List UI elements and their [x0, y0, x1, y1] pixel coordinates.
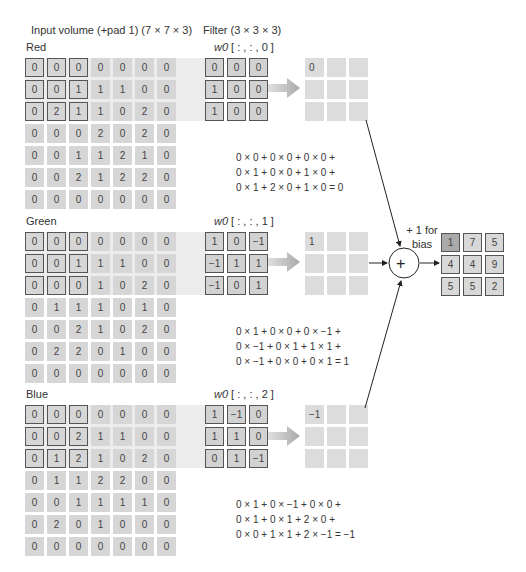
final-output-cell: 4: [441, 255, 460, 274]
final-output-cell: 7: [463, 233, 482, 252]
final-output-cell: 9: [485, 255, 504, 274]
bias-label: + 1 for bias: [397, 223, 447, 251]
final-output-grid: 175449552: [441, 233, 504, 296]
plus-icon: +: [396, 255, 405, 273]
bias-label-line2: bias: [397, 237, 447, 251]
final-output-cell: 5: [485, 233, 504, 252]
block-arrow-icon: [268, 78, 300, 446]
final-output-cell: 5: [463, 277, 482, 296]
bias-label-line1: + 1 for: [397, 223, 447, 237]
final-output-cell: 5: [441, 277, 460, 296]
final-output-cell: 1: [441, 233, 460, 252]
final-output-cell: 4: [463, 255, 482, 274]
final-output-cell: 2: [485, 277, 504, 296]
